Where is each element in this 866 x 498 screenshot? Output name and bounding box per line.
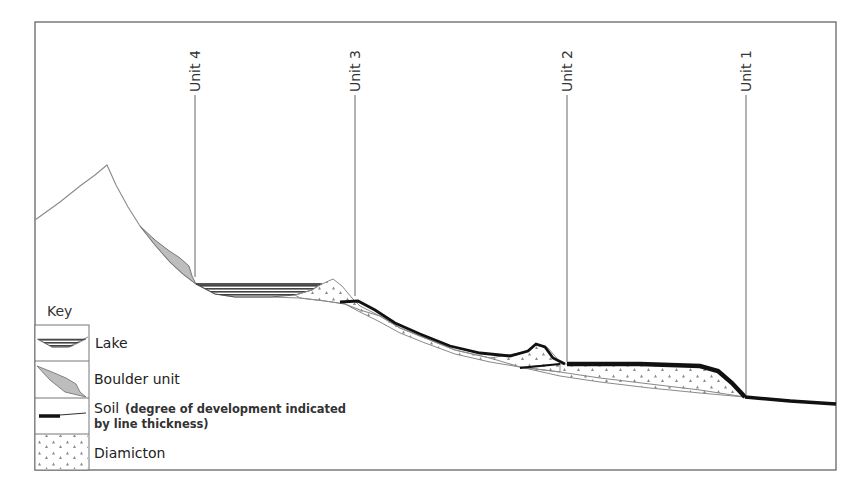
unit-4-label: Unit 4 <box>187 50 203 92</box>
unit-2-label: Unit 2 <box>559 50 575 92</box>
legend-soil-label: Soil <box>94 400 119 416</box>
diamicton-deposit-upper <box>295 279 560 372</box>
unit-1-marker: Unit 1 <box>738 50 754 395</box>
legend-soil-note-line2: by line thickness) <box>94 417 209 431</box>
legend: Key Lake Boulder unit Soil (degree of de… <box>35 303 346 470</box>
legend-diamicton-swatch <box>36 435 88 469</box>
legend-title: Key <box>47 303 72 319</box>
unit-4-marker: Unit 4 <box>187 50 203 277</box>
boulder-unit-deposit <box>140 226 196 284</box>
unit-1-label: Unit 1 <box>738 50 754 92</box>
legend-lake-label: Lake <box>95 335 128 351</box>
soil-horizons <box>340 301 836 404</box>
legend-diamicton-label: Diamicton <box>94 445 165 461</box>
unit-3-marker: Unit 3 <box>347 50 363 296</box>
unit-3-label: Unit 3 <box>347 50 363 92</box>
legend-boulder-label: Boulder unit <box>94 371 180 387</box>
unit-2-marker: Unit 2 <box>559 50 575 362</box>
unit-markers: Unit 4 Unit 3 Unit 2 Unit 1 <box>187 50 754 395</box>
legend-soil-note-line1: (degree of development indicated <box>125 402 346 416</box>
cross-section-diagram: Unit 4 Unit 3 Unit 2 Unit 1 Key Lake <box>0 0 866 498</box>
